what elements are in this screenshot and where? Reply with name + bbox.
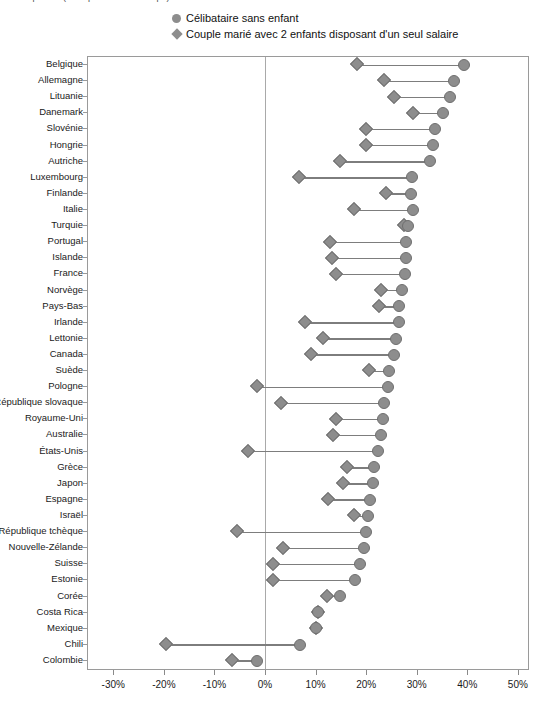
- diamond-data-point[interactable]: [325, 251, 339, 265]
- y-axis-label: États-Unis: [39, 446, 83, 456]
- y-axis-label: Canada: [50, 349, 83, 359]
- diamond-data-point[interactable]: [316, 331, 330, 345]
- circle-data-point[interactable]: [251, 655, 263, 667]
- diamond-data-point[interactable]: [241, 444, 255, 458]
- circle-data-point[interactable]: [372, 445, 384, 457]
- connector-line: [332, 258, 406, 259]
- circle-data-point[interactable]: [407, 204, 419, 216]
- diamond-data-point[interactable]: [379, 186, 393, 200]
- diamond-data-point[interactable]: [225, 653, 239, 667]
- diamond-data-point[interactable]: [230, 524, 244, 538]
- circle-data-point[interactable]: [444, 91, 456, 103]
- circle-data-point[interactable]: [312, 606, 324, 618]
- y-axis-label: République slovaque: [0, 397, 83, 407]
- circle-data-point[interactable]: [383, 365, 395, 377]
- connector-line: [340, 161, 431, 162]
- diamond-data-point[interactable]: [349, 57, 363, 71]
- circle-data-point[interactable]: [390, 333, 402, 345]
- circle-data-point[interactable]: [388, 349, 400, 361]
- circle-data-point[interactable]: [362, 510, 374, 522]
- diamond-data-point[interactable]: [374, 283, 388, 297]
- circle-data-point[interactable]: [294, 639, 306, 651]
- circle-data-point[interactable]: [427, 139, 439, 151]
- diamond-data-point[interactable]: [276, 540, 290, 554]
- circle-data-point[interactable]: [448, 75, 460, 87]
- diamond-data-point[interactable]: [377, 73, 391, 87]
- circle-data-point[interactable]: [402, 220, 414, 232]
- diamond-data-point[interactable]: [340, 460, 354, 474]
- legend-item-single-no-child: Célibataire sans enfant: [172, 12, 299, 24]
- chart-row: [88, 266, 528, 283]
- diamond-data-point[interactable]: [359, 122, 373, 136]
- circle-data-point[interactable]: [354, 558, 366, 570]
- circle-data-point[interactable]: [396, 284, 408, 296]
- circle-data-point[interactable]: [377, 413, 389, 425]
- circle-data-point[interactable]: [334, 590, 346, 602]
- circle-data-point[interactable]: [399, 268, 411, 280]
- x-axis-tick: [316, 670, 317, 675]
- x-axis-label: 50%: [508, 679, 528, 690]
- circle-data-point[interactable]: [378, 397, 390, 409]
- diamond-data-point[interactable]: [303, 347, 317, 361]
- diamond-data-point[interactable]: [329, 412, 343, 426]
- diamond-data-point[interactable]: [250, 379, 264, 393]
- x-axis-tick: [113, 670, 114, 675]
- chart-legend: Célibataire sans enfant Couple marié ave…: [0, 12, 540, 46]
- circle-data-point[interactable]: [382, 381, 394, 393]
- diamond-data-point[interactable]: [326, 428, 340, 442]
- diamond-data-point[interactable]: [266, 573, 280, 587]
- diamond-data-point[interactable]: [320, 589, 334, 603]
- circle-data-point[interactable]: [349, 574, 361, 586]
- circle-data-point[interactable]: [400, 252, 412, 264]
- chart-row: [88, 636, 528, 653]
- diamond-data-point[interactable]: [274, 395, 288, 409]
- diamond-data-point[interactable]: [321, 492, 335, 506]
- circle-data-point[interactable]: [364, 494, 376, 506]
- circle-data-point[interactable]: [360, 526, 372, 538]
- circle-data-point[interactable]: [393, 300, 405, 312]
- circle-data-point[interactable]: [429, 123, 441, 135]
- circle-data-point[interactable]: [310, 622, 322, 634]
- connector-line: [305, 322, 399, 323]
- y-axis-label: Australie: [46, 429, 83, 439]
- circle-data-point[interactable]: [437, 107, 449, 119]
- diamond-data-point[interactable]: [387, 89, 401, 103]
- diamond-data-point[interactable]: [323, 234, 337, 248]
- diamond-data-point[interactable]: [346, 202, 360, 216]
- circle-data-point[interactable]: [367, 477, 379, 489]
- diamond-data-point[interactable]: [406, 106, 420, 120]
- diamond-data-point[interactable]: [372, 299, 386, 313]
- circle-data-point[interactable]: [400, 236, 412, 248]
- y-axis-label: Chili: [65, 639, 83, 649]
- diamond-data-point[interactable]: [329, 267, 343, 281]
- circle-data-point[interactable]: [424, 155, 436, 167]
- circle-data-point[interactable]: [368, 461, 380, 473]
- circle-data-point[interactable]: [406, 171, 418, 183]
- y-axis-label: Belgique: [46, 59, 83, 69]
- y-axis-label: Portugal: [48, 236, 83, 246]
- chart-row: [88, 105, 528, 122]
- chart-row: [88, 346, 528, 363]
- diamond-data-point[interactable]: [346, 508, 360, 522]
- diamond-data-point[interactable]: [336, 476, 350, 490]
- circle-data-point[interactable]: [405, 188, 417, 200]
- diamond-data-point[interactable]: [362, 363, 376, 377]
- diamond-data-point[interactable]: [266, 557, 280, 571]
- chart-row: [88, 540, 528, 557]
- diamond-data-point[interactable]: [333, 154, 347, 168]
- diamond-data-point[interactable]: [298, 315, 312, 329]
- circle-data-point[interactable]: [375, 429, 387, 441]
- circle-data-point[interactable]: [358, 542, 370, 554]
- plot-area: [87, 56, 529, 670]
- circle-data-point[interactable]: [458, 59, 470, 71]
- chart-row: [88, 475, 528, 492]
- circle-data-point[interactable]: [393, 316, 405, 328]
- chart-row: [88, 298, 528, 315]
- diamond-data-point[interactable]: [159, 637, 173, 651]
- diamond-data-point[interactable]: [292, 170, 306, 184]
- chart-row: [88, 169, 528, 186]
- y-axis-label: Suisse: [54, 558, 83, 568]
- diamond-data-point[interactable]: [359, 138, 373, 152]
- x-axis-tick: [467, 670, 468, 675]
- chart-row: [88, 202, 528, 219]
